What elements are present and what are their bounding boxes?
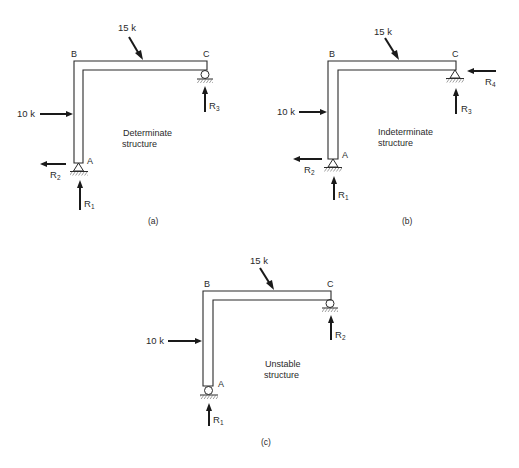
load-10k-arrow (168, 338, 202, 344)
reaction-r2-label: R2 (50, 169, 61, 181)
reaction-r1-arrow (331, 176, 337, 200)
reaction-r1-arrow (77, 180, 83, 210)
reaction-r1-label: R1 (213, 414, 224, 426)
pin-support-a (70, 163, 88, 176)
node-label-c: C (452, 49, 459, 59)
roller-support-c (322, 300, 338, 313)
roller-support-a (200, 387, 218, 400)
node-label-c: C (327, 279, 334, 289)
panel-a: B C A 15 k 10 k R2 R1 (17, 22, 220, 226)
panel-caption-b: (b) (402, 216, 413, 226)
load-15k-arrow (385, 38, 399, 60)
node-label-a: A (87, 156, 93, 166)
reaction-r2-arrow (328, 315, 334, 340)
reaction-r2-arrow (293, 156, 322, 162)
description-line-1: Unstable (265, 359, 301, 369)
reaction-r2-label: R2 (304, 164, 315, 176)
reaction-r1-arrow (206, 403, 212, 426)
description-line-2: structure (264, 370, 299, 380)
panel-b: B C A 15 k 10 k R2 R1 (277, 26, 496, 226)
pin-support-a (324, 159, 342, 172)
structures-figure: B C A 15 k 10 k R2 R1 (0, 0, 519, 468)
load-10k-arrow (40, 111, 73, 117)
description-line-2: structure (378, 138, 413, 148)
node-label-b: B (329, 49, 335, 59)
panel-caption-c: (c) (261, 437, 271, 447)
load-10k-label: 10 k (17, 108, 35, 119)
node-label-b: B (204, 279, 210, 289)
load-10k-label: 10 k (146, 335, 164, 346)
reaction-r3-label: R3 (209, 100, 220, 112)
reaction-r2-label: R2 (335, 329, 346, 341)
reaction-r3-label: R3 (461, 103, 472, 115)
reaction-r2-arrow (40, 161, 66, 167)
load-15k-label: 15 k (374, 26, 392, 37)
node-label-b: B (71, 49, 77, 59)
reaction-r3-arrow (202, 86, 208, 112)
reaction-r4-label: R4 (485, 76, 496, 88)
reaction-r3-arrow (453, 88, 459, 114)
load-15k-label: 15 k (250, 255, 268, 266)
load-10k-arrow (299, 109, 327, 115)
reaction-r1-label: R1 (338, 189, 349, 201)
panel-caption-a: (a) (148, 216, 159, 226)
reaction-r1-label: R1 (84, 198, 95, 210)
node-label-a: A (342, 150, 348, 160)
description-line-2: structure (122, 139, 157, 149)
roller-support-c (197, 71, 213, 84)
load-10k-label: 10 k (277, 106, 295, 117)
description-line-1: Determinate (123, 128, 172, 138)
load-15k-arrow (129, 37, 143, 60)
panel-c: B C A 15 k 10 k R1 (146, 255, 346, 447)
node-label-c: C (203, 49, 210, 59)
pin-support-c (446, 70, 464, 83)
description-line-1: Indeterminate (378, 127, 433, 137)
load-15k-label: 15 k (118, 22, 136, 33)
node-label-a: A (218, 379, 224, 389)
load-15k-arrow (260, 268, 274, 290)
reaction-r4-arrow (467, 68, 496, 74)
